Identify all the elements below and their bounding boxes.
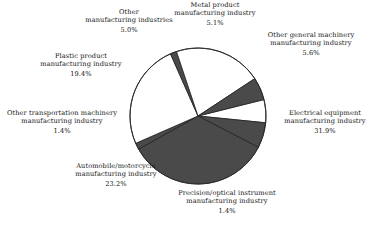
label-plastic-product: Plastic product manufacturing industry 1… xyxy=(26,53,136,79)
label-other-general-machinery-percent: 5.6% xyxy=(248,50,374,58)
label-automobile-motorcycle-line2: manufacturing industry xyxy=(56,171,176,179)
label-precision-optical-percent: 1.4% xyxy=(166,208,288,216)
label-electrical-equipment-percent: 31.9% xyxy=(272,128,378,136)
label-other-transportation-line2: manufacturing industry xyxy=(0,118,124,126)
label-metal-product-line2: manufacturing industry xyxy=(160,10,270,18)
label-metal-product-percent: 5.1% xyxy=(160,20,270,28)
label-electrical-equipment-line2: manufacturing industry xyxy=(272,118,378,126)
label-electrical-equipment: Electrical equipment manufacturing indus… xyxy=(272,110,378,136)
label-automobile-motorcycle-percent: 23.2% xyxy=(56,181,176,189)
label-other-manufacturing-percent: 5.0% xyxy=(74,27,184,35)
label-automobile-motorcycle: Automobile/motorcycle manufacturing indu… xyxy=(56,163,176,189)
label-metal-product: Metal product manufacturing industry 5.1… xyxy=(160,2,270,28)
label-precision-optical-line2: manufacturing industry xyxy=(166,198,288,206)
pie-chart: Other manufacturing industries 5.0% Meta… xyxy=(0,0,378,235)
label-plastic-product-line2: manufacturing industry xyxy=(26,61,136,69)
label-plastic-product-percent: 19.4% xyxy=(26,71,136,79)
label-other-transportation: Other transportation machinery manufactu… xyxy=(0,110,124,136)
label-other-general-machinery: Other general machinery manufacturing in… xyxy=(248,32,374,58)
label-other-general-machinery-line2: manufacturing industry xyxy=(248,40,374,48)
label-precision-optical: Precision/optical instrument manufacturi… xyxy=(166,190,288,216)
label-other-transportation-percent: 1.4% xyxy=(0,128,124,136)
